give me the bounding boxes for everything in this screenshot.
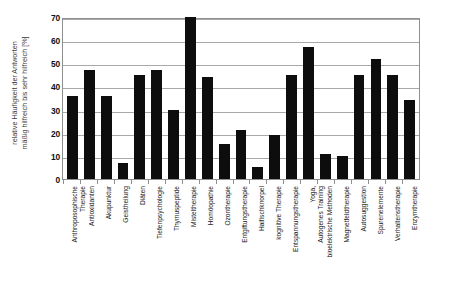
x-axis-category-label-line: Akupunktur: [105, 186, 113, 219]
bar: [151, 70, 162, 179]
bar: [286, 75, 297, 179]
y-axis-tick-label: 30: [36, 106, 60, 116]
x-axis-category-labels: AnthroposophischeTherapieAntioxidantenAk…: [62, 184, 420, 291]
x-axis-category-label-line: Enzymtherapie: [411, 186, 419, 230]
x-axis-category-label: Tiefenpsychologie: [156, 186, 164, 239]
x-label-slot: Spurenelemente: [368, 184, 385, 291]
x-axis-category-label: Spurenelemente: [377, 186, 385, 234]
x-axis-category-label-line: Haifischknorpel: [258, 186, 266, 231]
x-axis-category-label: kognitive Therapie: [275, 186, 283, 240]
x-axis-category-label: Akupunktur: [105, 186, 113, 219]
x-axis-category-label: Autosuggestion: [360, 186, 368, 231]
x-label-slot: Autosuggestion: [351, 184, 368, 291]
x-axis-category-label: Verhaltenstherapie: [394, 186, 402, 241]
y-axis-tick-label: 40: [36, 82, 60, 92]
bar-slot: [367, 19, 384, 179]
x-label-slot: Misteltherapie: [182, 184, 199, 291]
bar: [134, 75, 145, 179]
y-axis-tick-label: 20: [36, 129, 60, 139]
bar-slot: [300, 19, 317, 179]
y-axis-tick-label: 10: [36, 152, 60, 162]
x-axis-category-label: Misteltherapie: [190, 186, 198, 227]
x-label-slot: Ozontherapie: [216, 184, 233, 291]
x-axis-category-label: bioelektrische Methoden: [326, 186, 334, 257]
bar-slot: [131, 19, 148, 179]
x-label-slot: Akupunktur: [97, 184, 114, 291]
x-axis-category-label: Thymuspeptide: [173, 186, 181, 231]
x-label-slot: Antioxidanten: [80, 184, 97, 291]
plot-area: [62, 18, 420, 180]
bar-slot: [216, 19, 233, 179]
bar: [320, 154, 331, 179]
x-axis-category-label-line: Tiefenpsychologie: [156, 186, 164, 239]
bar-slot: [199, 19, 216, 179]
bar: [84, 70, 95, 179]
x-label-slot: Tiefenpsychologie: [148, 184, 165, 291]
x-label-slot: AnthroposophischeTherapie: [63, 184, 80, 291]
x-axis-category-label-line: Entspannungstherapie: [292, 186, 300, 252]
x-axis-category-label-line: kognitive Therapie: [275, 186, 283, 240]
x-label-slot: Entspannungstherapie: [283, 184, 300, 291]
bar-slot: [182, 19, 199, 179]
x-axis-category-label: Enzymtherapie: [411, 186, 419, 230]
x-axis-category-label-line: Spurenelemente: [377, 186, 385, 234]
bar-slot: [283, 19, 300, 179]
bar-slot: [81, 19, 98, 179]
y-axis-title-line-1: relative Häufigkeit der Antworten: [10, 36, 20, 149]
x-axis-category-label: Geistheilung: [122, 186, 130, 223]
x-label-slot: Yoga,Autogenes Training: [300, 184, 317, 291]
bar: [387, 75, 398, 179]
x-label-slot: Haifischknorpel: [249, 184, 266, 291]
bar-slot: [401, 19, 418, 179]
x-label-slot: Verhaltenstherapie: [385, 184, 402, 291]
bar: [236, 130, 247, 179]
bar-slot: [351, 19, 368, 179]
x-axis-category-label-line: Antioxidanten: [88, 186, 96, 226]
bar: [67, 96, 78, 179]
x-axis-category-label: Entgiftungstherapie: [241, 186, 249, 243]
x-axis-category-label: Antioxidanten: [88, 186, 96, 226]
bar-slot: [98, 19, 115, 179]
x-label-slot: Homöopathie: [199, 184, 216, 291]
bar-slot: [317, 19, 334, 179]
y-axis-tick-labels: 706050403020100: [36, 0, 60, 291]
bars-layer: [63, 19, 419, 179]
x-axis-category-label-line: Misteltherapie: [190, 186, 198, 227]
x-axis-category-label: Haifischknorpel: [258, 186, 266, 231]
y-axis-tick-label: 60: [36, 36, 60, 46]
bar-slot: [115, 19, 132, 179]
x-axis-category-label-line: Yoga,: [309, 186, 317, 243]
x-axis-category-label-line: Homöopathie: [207, 186, 215, 225]
bar: [303, 47, 314, 179]
bar-slot: [64, 19, 81, 179]
x-axis-category-label: Homöopathie: [207, 186, 215, 225]
x-label-slot: Geistheilung: [114, 184, 131, 291]
bar-slot: [266, 19, 283, 179]
x-axis-category-label-line: Geistheilung: [122, 186, 130, 223]
bar-slot: [165, 19, 182, 179]
bar: [185, 17, 196, 179]
x-axis-category-label-line: Entgiftungstherapie: [241, 186, 249, 243]
bar: [371, 59, 382, 179]
x-axis-category-label-line: Ozontherapie: [224, 186, 232, 226]
y-axis-title: relative Häufigkeit der Antworten mäßig …: [0, 0, 40, 185]
y-axis-tick-label: 0: [36, 175, 60, 185]
bar: [101, 96, 112, 179]
x-axis-category-label-line: Magnetfeldtherapie: [343, 186, 351, 242]
x-label-slot: bioelektrische Methoden: [317, 184, 334, 291]
bar-slot: [334, 19, 351, 179]
y-axis-tick-label: 50: [36, 59, 60, 69]
bar: [219, 144, 230, 179]
x-axis-category-label-line: Autosuggestion: [360, 186, 368, 231]
x-label-slot: Enzymtherapie: [402, 184, 419, 291]
x-axis-category-label-line: bioelektrische Methoden: [326, 186, 334, 257]
bar-slot: [249, 19, 266, 179]
bar: [202, 77, 213, 179]
bar-slot: [148, 19, 165, 179]
y-axis-title-line-2: mäßig hilfreich bis sehr hilfreich [%]: [20, 36, 30, 149]
x-axis-category-label-line: Verhaltenstherapie: [394, 186, 402, 241]
bar: [354, 75, 365, 179]
x-axis-category-label: Magnetfeldtherapie: [343, 186, 351, 242]
bar: [118, 163, 129, 179]
bar: [252, 167, 263, 179]
